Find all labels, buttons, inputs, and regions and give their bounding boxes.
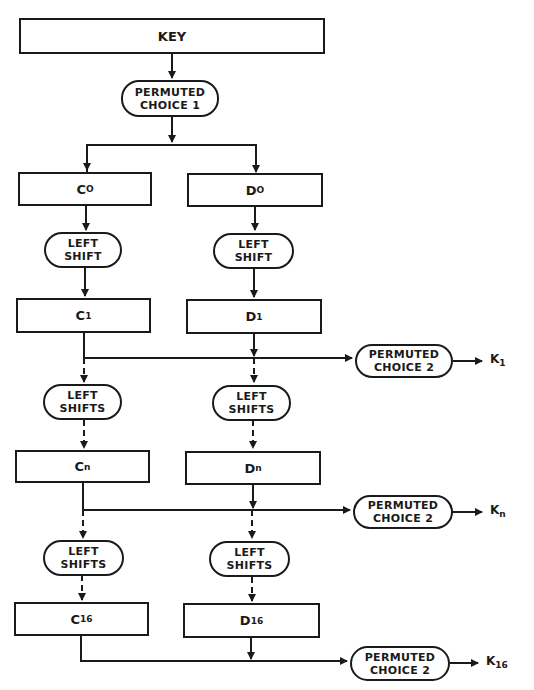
dn-box: Dn	[185, 451, 321, 485]
k16-output: K16	[486, 654, 508, 670]
shift-line1: LEFT	[235, 238, 273, 251]
c0-box: CO	[18, 172, 152, 206]
c-left-shift-1: LEFTSHIFT	[44, 232, 122, 268]
permuted-choice-2-k1: PERMUTEDCHOICE 2	[355, 344, 453, 378]
c0-base: C	[76, 182, 86, 197]
d16-base: D	[240, 613, 251, 628]
permuted-choice-2-k16: PERMUTEDCHOICE 2	[350, 646, 450, 681]
dn-base: D	[244, 461, 255, 476]
k16-sub: 16	[495, 660, 508, 670]
permuted-choice-1: PERMUTEDCHOICE 1	[121, 80, 219, 117]
cn-base: C	[75, 459, 85, 474]
pc2-line2: CHOICE 2	[365, 664, 435, 677]
dn-sub: n	[255, 463, 261, 473]
shift-line2: SHIFT	[64, 250, 102, 263]
k1-output: K1	[490, 352, 506, 368]
shift-line2: SHIFTS	[60, 402, 106, 415]
pc1-line1: PERMUTED	[135, 86, 205, 99]
pc2-line1: PERMUTED	[368, 499, 438, 512]
shift-line1: LEFT	[229, 390, 275, 403]
kn-output: Kn	[490, 503, 506, 519]
pc2-line1: PERMUTED	[369, 348, 439, 361]
shift-line2: SHIFT	[235, 251, 273, 264]
shift-line1: LEFT	[227, 546, 273, 559]
shift-line1: LEFT	[60, 389, 106, 402]
d1-sub: 1	[256, 312, 262, 322]
c16-sub: 16	[80, 614, 93, 624]
cn-sub: n	[84, 462, 90, 472]
d16-sub: 16	[251, 616, 264, 626]
d1-base: D	[245, 309, 256, 324]
kn-base: K	[490, 503, 499, 517]
k1-sub: 1	[499, 358, 505, 368]
k1-base: K	[490, 352, 499, 366]
shift-line2: SHIFTS	[227, 559, 273, 572]
pc2-line2: CHOICE 2	[369, 361, 439, 374]
pc2-line2: CHOICE 2	[368, 512, 438, 525]
cn-box: Cn	[15, 450, 150, 483]
d16-box: D16	[183, 603, 320, 638]
key-label: KEY	[158, 29, 186, 44]
shift-line2: SHIFTS	[229, 403, 275, 416]
d-left-shifts-3: LEFTSHIFTS	[209, 541, 290, 577]
d0-box: DO	[187, 173, 323, 207]
kn-sub: n	[499, 509, 505, 519]
connector-lines	[0, 0, 534, 690]
c1-box: C1	[16, 298, 151, 333]
shift-line1: LEFT	[64, 237, 102, 250]
d0-base: D	[246, 183, 257, 198]
c1-sub: 1	[85, 311, 91, 321]
pc2-line1: PERMUTED	[365, 651, 435, 664]
shift-line1: LEFT	[61, 545, 107, 558]
c-left-shifts-3: LEFTSHIFTS	[43, 540, 124, 576]
c16-box: C16	[14, 602, 149, 636]
c1-base: C	[76, 308, 86, 323]
c-left-shifts-2: LEFTSHIFTS	[43, 384, 122, 420]
d0-sub: O	[257, 185, 265, 195]
shift-line2: SHIFTS	[61, 558, 107, 571]
d-left-shift-1: LEFTSHIFT	[213, 233, 294, 269]
c16-base: C	[70, 612, 80, 627]
key-box: KEY	[19, 18, 325, 54]
permuted-choice-2-kn: PERMUTEDCHOICE 2	[353, 495, 453, 529]
pc1-line2: CHOICE 1	[135, 99, 205, 112]
d-left-shifts-2: LEFTSHIFTS	[212, 385, 291, 421]
c0-sub: O	[86, 184, 94, 194]
d1-box: D1	[186, 299, 322, 334]
k16-base: K	[486, 654, 495, 668]
